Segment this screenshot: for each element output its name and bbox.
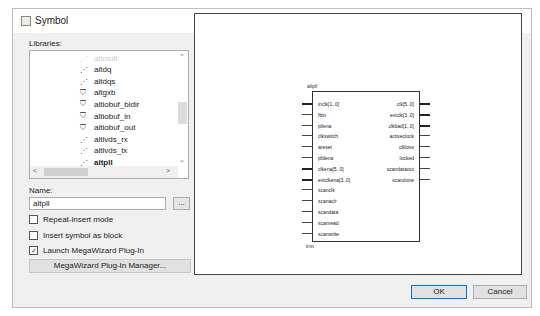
output-wire [420,157,430,158]
input-wire [302,189,312,190]
output-wire [420,168,430,169]
symbol-body: inclk[1..0]fbinpllenaclkswitcharesetpfde… [312,91,420,242]
megawizard-manager-button[interactable]: MegaWizard Plug-In Manager... [29,259,191,273]
library-item[interactable]: ⋰altpll [80,156,113,168]
output-pin: activeclock [390,132,414,140]
input-wire [302,200,312,201]
output-wire [420,135,430,136]
symbol-app-icon [21,16,31,26]
library-item[interactable]: ⋰altlvds_tx [80,145,127,157]
cancel-button[interactable]: Cancel [473,285,527,299]
input-pin: inclk[1..0] [318,100,339,108]
chip-icon: ⛉ [80,99,90,109]
name-label: Name: [29,186,53,195]
altpll-symbol: altpll inclk[1..0]fbinpllenaclkswitchare… [312,87,420,245]
libraries-list[interactable]: ⌃ ⌄ < > ⋰altmult⋰altdq⋰altdqs⛉altgxb⛉alt… [29,50,189,179]
input-pin: scandata [318,208,338,216]
library-item[interactable]: ⛉altiobuf_bidir [80,98,139,110]
input-wire [302,146,312,147]
input-pin: scanwrite [318,230,339,238]
chip-icon: ⛉ [80,88,90,98]
input-wire [302,168,312,170]
input-pin: fbin [318,111,326,119]
input-wire [302,211,312,212]
input-pin: pfdena [318,154,333,162]
input-wire [302,125,312,126]
symbol-name: altpll [307,83,317,89]
input-pin: areset [318,143,332,151]
input-wire [302,179,312,181]
instance-name: inst [306,243,314,249]
input-pin: scanread [318,219,339,227]
scroll-up-icon[interactable]: ⌃ [179,53,185,61]
wand-icon: ⋰ [80,54,90,63]
horizontal-scroll-thumb[interactable] [44,168,88,176]
input-pin: extclkena[3..0] [318,176,350,184]
output-pin: scandataout [387,165,414,173]
checkbox-box[interactable] [29,215,38,224]
output-pin: clkloss [399,143,414,151]
wand-icon: ⋰ [80,65,90,74]
ok-button[interactable]: OK [411,285,467,299]
input-wire [302,135,312,136]
input-wire [302,103,312,105]
chip-icon: ⛉ [80,111,90,121]
library-item[interactable]: ⋰altdq [80,64,111,76]
output-wire [420,179,430,180]
library-item[interactable]: ⛉altgxb [80,87,115,99]
checkmark-icon[interactable]: ✓ [29,246,38,255]
launch-megawizard-checkbox[interactable]: ✓ Launch MegaWizard Plug-In [29,246,144,255]
output-pin: extclk[3..0] [390,111,414,119]
input-wire [302,157,312,158]
chip-icon: ⛉ [80,123,90,133]
symbol-preview-canvas: altpll inclk[1..0]fbinpllenaclkswitchare… [194,13,522,275]
output-pin: clkbad[1..0] [388,122,414,130]
library-item[interactable]: ⋰altlvds_rx [80,133,128,145]
library-item[interactable]: ⋰altdqs [80,75,115,87]
vertical-scroll-thumb[interactable] [178,102,187,124]
input-wire [302,233,312,234]
input-pin: clkena[5..0] [318,165,344,173]
scroll-left-icon[interactable]: < [33,167,37,174]
input-wire [302,114,312,115]
output-wire [420,146,430,147]
wand-icon: ⋰ [80,77,90,86]
insert-as-block-checkbox[interactable]: Insert symbol as block [29,231,122,240]
wand-icon: ⋰ [80,135,90,144]
output-pin: clk[5..0] [397,100,414,108]
browse-button[interactable]: ... [173,197,190,210]
scroll-down-icon[interactable]: ⌄ [179,156,185,164]
name-input[interactable]: altpll [29,197,166,210]
dialog-title: Symbol [35,15,68,26]
input-wire [302,222,312,223]
wand-icon: ⋰ [80,146,90,155]
library-item[interactable]: ⛉altiobuf_out [80,122,135,134]
output-pin: scandone [392,176,414,184]
wand-icon: ⋰ [80,158,90,167]
input-pin: clkswitch [318,132,338,140]
input-pin: scanaclr [318,197,337,205]
vertical-scrollbar[interactable]: ⌃ ⌄ [176,51,188,168]
repeat-insert-checkbox[interactable]: Repeat-insert mode [29,215,113,224]
output-wire [420,114,430,116]
output-wire [420,125,430,127]
scroll-right-icon[interactable]: > [166,167,170,174]
input-pin: scanclk [318,186,335,194]
library-item[interactable]: ⋰altmult [80,52,118,64]
output-wire [420,103,430,105]
library-item[interactable]: ⛉altiobuf_in [80,110,130,122]
symbol-dialog: Symbol ✕ Libraries: ⌃ ⌄ < > ⋰altmult⋰alt… [12,8,532,308]
input-pin: pllena [318,122,331,130]
checkbox-box[interactable] [29,231,38,240]
libraries-label: Libraries: [29,39,62,48]
output-pin: locked [400,154,414,162]
